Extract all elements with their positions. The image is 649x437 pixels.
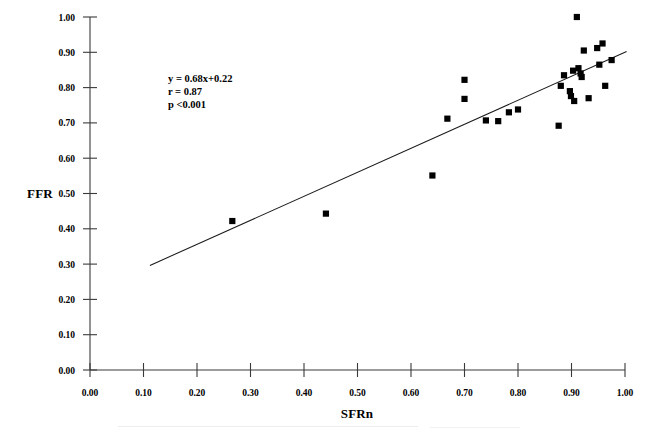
data-point: [323, 211, 329, 217]
y-tick-label: 0.20: [58, 295, 75, 305]
scan-artifacts: [118, 426, 520, 428]
regression-equation-text: y = 0.68x+0.22: [168, 73, 232, 84]
data-point: [609, 57, 615, 63]
data-point: [586, 95, 592, 101]
x-tick-label: 0.80: [510, 388, 527, 398]
data-point: [229, 218, 235, 224]
x-axis: [90, 363, 625, 377]
data-point: [561, 72, 567, 78]
x-tick-label: 0.50: [349, 388, 366, 398]
y-tick-label: 0.10: [58, 330, 75, 340]
y-tick-labels: 1.00 0.90 0.80 0.70 0.60 0.50 0.40 0.30 …: [58, 13, 75, 376]
data-point: [602, 83, 608, 89]
data-point: [581, 47, 587, 53]
data-point: [515, 106, 521, 112]
data-point: [594, 45, 600, 51]
statistics-annotation: y = 0.68x+0.22 r = 0.87 p <0.001: [168, 73, 232, 110]
data-point: [596, 62, 602, 68]
data-point: [575, 65, 581, 71]
data-point: [461, 77, 467, 83]
data-point: [461, 96, 467, 102]
x-tick-label: 0.70: [456, 388, 473, 398]
y-tick-label: 1.00: [58, 13, 75, 23]
y-tick-label: 0.50: [58, 189, 75, 199]
data-point: [570, 68, 576, 74]
x-tick-label: 0.00: [82, 388, 99, 398]
scatter-plot-figure: 1.00 0.90 0.80 0.70 0.60 0.50 0.40 0.30 …: [0, 0, 649, 437]
y-axis-title: FFR: [27, 186, 53, 201]
pvalue-text: p <0.001: [168, 99, 206, 110]
y-tick-label: 0.40: [58, 224, 75, 234]
data-point: [579, 74, 585, 80]
data-point: [429, 172, 435, 178]
y-axis: [83, 17, 97, 370]
y-tick-label: 0.70: [58, 118, 75, 128]
y-tick-label: 0.60: [58, 154, 75, 164]
x-tick-label: 0.40: [296, 388, 313, 398]
data-point: [506, 109, 512, 115]
data-point: [571, 98, 577, 104]
x-tick-labels: 0.00 0.10 0.20 0.30 0.40 0.50 0.60 0.70 …: [82, 388, 634, 398]
data-point: [483, 117, 489, 123]
data-point: [558, 83, 564, 89]
x-tick-label: 0.60: [403, 388, 420, 398]
data-point: [495, 118, 501, 124]
y-tick-label: 0.00: [58, 366, 75, 376]
y-tick-label: 0.80: [58, 83, 75, 93]
x-tick-label: 0.10: [135, 388, 152, 398]
data-point: [574, 14, 580, 20]
x-axis-title: SFRn: [341, 406, 374, 421]
data-point: [599, 40, 605, 46]
data-points-group: [229, 14, 615, 224]
plot-canvas: 1.00 0.90 0.80 0.70 0.60 0.50 0.40 0.30 …: [0, 0, 649, 437]
y-tick-label: 0.90: [58, 48, 75, 58]
x-tick-label: 1.00: [617, 388, 634, 398]
data-point: [556, 123, 562, 129]
y-tick-label: 0.30: [58, 260, 75, 270]
data-point: [444, 116, 450, 122]
correlation-text: r = 0.87: [168, 86, 202, 97]
x-tick-label: 0.90: [563, 388, 580, 398]
x-tick-label: 0.20: [189, 388, 206, 398]
x-tick-label: 0.30: [242, 388, 259, 398]
